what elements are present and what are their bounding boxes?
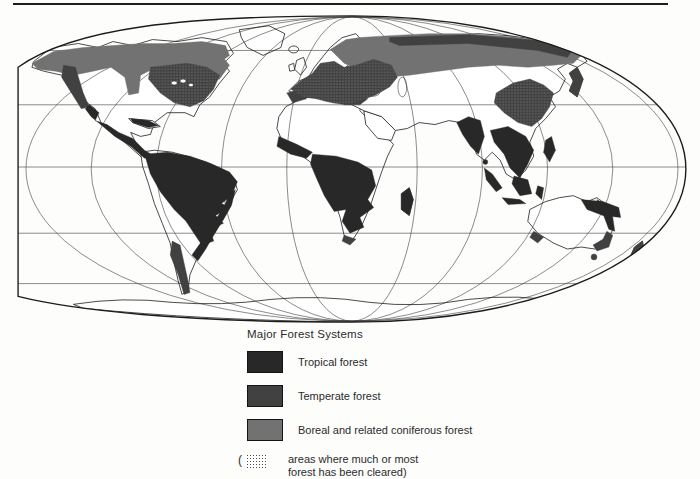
continent-antarctica	[73, 297, 602, 322]
cleared-note-line1: areas where much or most	[288, 453, 418, 466]
forest-tropical-java	[502, 198, 526, 205]
island-ireland	[289, 63, 295, 71]
cleared-areas-note: areas where much or most forest has been…	[288, 453, 418, 479]
world-map-svg	[0, 6, 700, 332]
forest-tropical-borneo	[512, 176, 532, 196]
cleared-areas-stipple-swatch	[246, 454, 268, 468]
temperate-forest-label: Temperate forest	[298, 390, 381, 402]
temperate-forest-swatch	[247, 385, 283, 407]
boreal-forest-label: Boreal and related coniferous forest	[298, 424, 472, 436]
legend-row-tropical: Tropical forest	[247, 351, 538, 373]
sea-caspian	[398, 77, 407, 97]
legend: Major Forest Systems Tropical forest Tem…	[238, 328, 538, 479]
top-rule	[13, 3, 668, 5]
island-britain	[295, 57, 307, 75]
forest-tropical-india	[457, 117, 485, 155]
forest-tropical-sulawesi	[536, 186, 544, 200]
legend-title: Major Forest Systems	[247, 328, 538, 340]
island-iceland	[289, 46, 299, 53]
open-paren: (	[238, 453, 242, 467]
forest-temperate-tasmania	[591, 254, 597, 260]
forest-tropical-sri-lanka	[483, 160, 488, 165]
legend-row-temperate: Temperate forest	[247, 385, 538, 407]
boreal-forest-swatch	[247, 419, 283, 441]
legend-row-cleared: ( areas where much or most forest has be…	[238, 453, 538, 479]
forest-tropical-philippines	[544, 136, 556, 162]
world-forest-map	[0, 6, 700, 332]
legend-row-boreal: Boreal and related coniferous forest	[247, 419, 538, 441]
cleared-note-line2: forest has been cleared)	[288, 466, 418, 479]
forest-temperate-japan	[569, 67, 583, 97]
tropical-forest-label: Tropical forest	[298, 356, 367, 368]
tropical-forest-swatch	[247, 351, 283, 373]
forest-tropical-sumatra	[484, 168, 502, 192]
